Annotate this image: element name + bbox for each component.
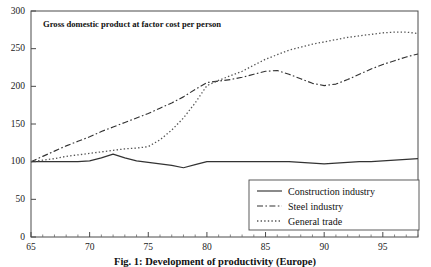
legend-label-general-trade: General trade: [288, 216, 343, 227]
x-tick-label-85: 85: [261, 242, 271, 252]
x-tick-label-80: 80: [202, 242, 212, 252]
y-tick-label-150: 150: [11, 119, 26, 129]
y-tick-label-100: 100: [11, 156, 26, 166]
y-tick-label-250: 250: [11, 43, 26, 53]
x-tick-label-65: 65: [26, 242, 36, 252]
y-tick-label-0: 0: [20, 232, 25, 242]
productivity-line-chart: 05010015020025030065707580859095 Gross d…: [0, 0, 431, 267]
legend-label-construction-industry: Construction industry: [288, 186, 375, 197]
x-tick-label-70: 70: [85, 242, 95, 252]
x-tick-label-75: 75: [144, 242, 154, 252]
y-tick-label-50: 50: [16, 194, 26, 204]
figure-caption: Fig. 1: Development of productivity (Eur…: [114, 256, 317, 267]
y-tick-label-200: 200: [11, 81, 26, 91]
legend-label-steel-industry: Steel industry: [288, 201, 343, 212]
y-tick-label-300: 300: [11, 6, 26, 16]
x-tick-label-95: 95: [378, 242, 388, 252]
x-tick-label-90: 90: [319, 242, 329, 252]
figure-container: 05010015020025030065707580859095 Gross d…: [0, 0, 431, 267]
chart-title: Gross domestic product at factor cost pe…: [43, 19, 221, 29]
legend: Construction industrySteel industryGener…: [249, 180, 419, 230]
